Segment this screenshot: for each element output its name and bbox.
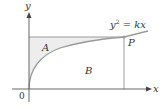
y-axis-arrow-icon [27, 12, 32, 18]
equation-rhs: = kx [119, 19, 145, 30]
region-a-label: A [42, 43, 49, 53]
x-axis-label: x [153, 84, 159, 94]
point-p-label: P [128, 38, 135, 48]
point-p-marker [122, 35, 125, 38]
y-axis-label: y [25, 1, 31, 11]
origin-label: 0 [19, 92, 25, 101]
parabola-area-diagram: y x 0 A B P y2 = kx [0, 0, 166, 107]
x-axis-arrow-icon [146, 87, 152, 92]
region-b-label: B [85, 66, 92, 76]
curve-equation-label: y2 = kx [110, 20, 146, 30]
